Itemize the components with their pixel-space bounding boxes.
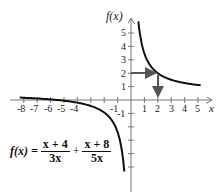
fraction-1: x + 4 3x [41, 138, 70, 165]
x-tick-label: 1 [142, 103, 147, 114]
fraction-2-denominator: 5x [91, 152, 103, 165]
y-tick-label: 3 [121, 54, 126, 65]
y-tick-label: -1 [117, 108, 125, 119]
fraction-1-numerator: x + 4 [41, 138, 70, 152]
fraction-2-numerator: x + 8 [82, 138, 111, 152]
x-tick-label: 4 [182, 103, 187, 114]
function-formula: f(x) = x + 4 3x + x + 8 5x [10, 138, 111, 165]
y-tick-label: 2 [121, 68, 126, 79]
x-axis-label: x [208, 102, 214, 114]
y-axis-label: f(x) [106, 9, 123, 23]
x-tick-label: 3 [169, 103, 174, 114]
curve-right-branch [138, 21, 200, 85]
x-tick-label: -5 [57, 103, 65, 114]
x-tick-label: -7 [30, 103, 38, 114]
y-tick-label: 5 [121, 27, 126, 38]
formula-lhs: f(x) = [10, 144, 38, 159]
fraction-2: x + 8 5x [82, 138, 111, 165]
x-tick-label: 2 [155, 103, 160, 114]
x-tick-label: -6 [44, 103, 52, 114]
y-tick-label: 4 [121, 41, 126, 52]
fraction-1-denominator: 3x [49, 152, 61, 165]
y-tick-label: 1 [121, 81, 126, 92]
plus-sign: + [73, 144, 80, 159]
x-tick-label: 5 [195, 103, 200, 114]
x-tick-label: -8 [17, 103, 25, 114]
x-tick-label: -4 [70, 103, 78, 114]
